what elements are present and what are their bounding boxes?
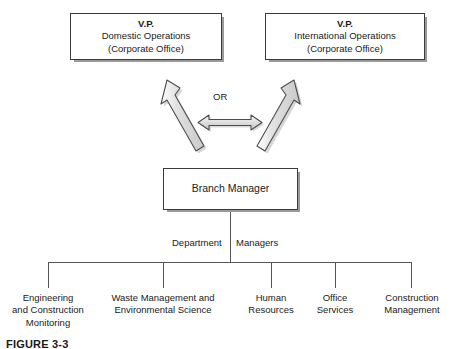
- figure-caption: FIGURE 3-3: [6, 338, 69, 349]
- node-line: V.P.: [337, 18, 353, 30]
- leaf-office-services: Office Services: [317, 292, 353, 317]
- leaf-human-resources: Human Resources: [248, 292, 293, 317]
- or-double-arrow-icon: [198, 115, 264, 132]
- leaf-construction-management: Construction Management: [384, 292, 439, 317]
- leaf-line: Monitoring: [12, 317, 84, 329]
- node-line: Domestic Operations: [102, 30, 191, 42]
- leaf-line: Resources: [248, 304, 293, 316]
- leaf-line: Services: [317, 304, 353, 316]
- node-vp-international-operations: V.P. International Operations (Corporate…: [265, 13, 425, 60]
- managers-label: Managers: [236, 238, 278, 248]
- organizational-chart-figure: V.P. Domestic Operations (Corporate Offi…: [0, 0, 455, 349]
- department-label: Department: [172, 238, 222, 248]
- node-line: International Operations: [294, 30, 395, 42]
- node-line: Branch Manager: [192, 182, 270, 195]
- arrow-to-vp-domestic-icon: [161, 80, 207, 154]
- leaf-line: Environmental Science: [111, 304, 214, 316]
- leaf-line: Waste Management and: [111, 292, 214, 304]
- leaf-line: Office: [317, 292, 353, 304]
- node-branch-manager: Branch Manager: [163, 168, 298, 210]
- leaf-waste-management-and-environmental-science: Waste Management and Environmental Scien…: [111, 292, 214, 317]
- arrow-to-vp-international-icon: [257, 80, 303, 154]
- leaf-engineering-and-construction-monitoring: Engineering and Construction Monitoring: [12, 292, 84, 329]
- leaf-line: Engineering: [12, 292, 84, 304]
- leaf-line: and Construction: [12, 304, 84, 316]
- leaf-line: Human: [248, 292, 293, 304]
- leaf-line: Construction: [384, 292, 439, 304]
- node-line: (Corporate Office): [108, 43, 184, 55]
- node-line: (Corporate Office): [307, 43, 383, 55]
- or-label: OR: [213, 92, 227, 102]
- node-line: V.P.: [138, 18, 154, 30]
- leaf-line: Management: [384, 304, 439, 316]
- node-vp-domestic-operations: V.P. Domestic Operations (Corporate Offi…: [70, 13, 222, 60]
